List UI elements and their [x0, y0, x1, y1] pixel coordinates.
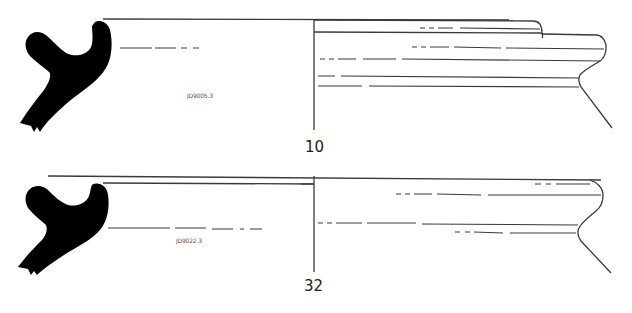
drawing-number-10: 10: [305, 138, 324, 156]
inventory-label-10: JD9005.3: [187, 92, 213, 99]
drawing-number-32: 32: [304, 277, 323, 295]
drawing-32: [18, 176, 611, 275]
drawing-10: [20, 19, 612, 132]
pottery-drawing-canvas: [0, 0, 632, 313]
section-profile-32: [18, 183, 109, 275]
inventory-label-32: JD9022.3: [176, 237, 202, 244]
section-profile-10: [20, 21, 112, 132]
